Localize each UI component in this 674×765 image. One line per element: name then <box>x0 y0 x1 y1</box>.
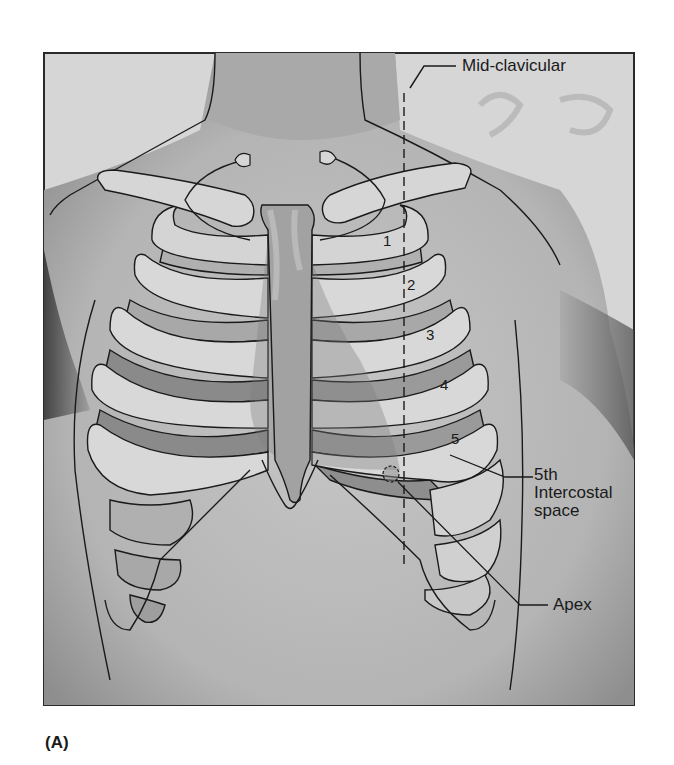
chest-anatomy-figure: Mid-clavicular 5th Intercostal space Ape… <box>0 0 674 765</box>
intercostal-label-line3: space <box>534 502 579 520</box>
rib-number-5: 5 <box>451 430 459 447</box>
intercostal-label-line2: Intercostal <box>534 484 612 502</box>
rib-number-3: 3 <box>426 326 434 343</box>
apex-label: Apex <box>553 596 592 614</box>
chest-illustration <box>0 0 674 765</box>
apex-marker <box>383 466 399 482</box>
intercostal-label-line1: 5th <box>534 466 558 484</box>
rib-number-2: 2 <box>407 276 415 293</box>
rib-number-1: 1 <box>383 232 391 249</box>
mid-clavicular-label: Mid-clavicular <box>462 57 566 75</box>
figure-caption: (A) <box>45 733 69 753</box>
rib-number-4: 4 <box>440 376 448 393</box>
